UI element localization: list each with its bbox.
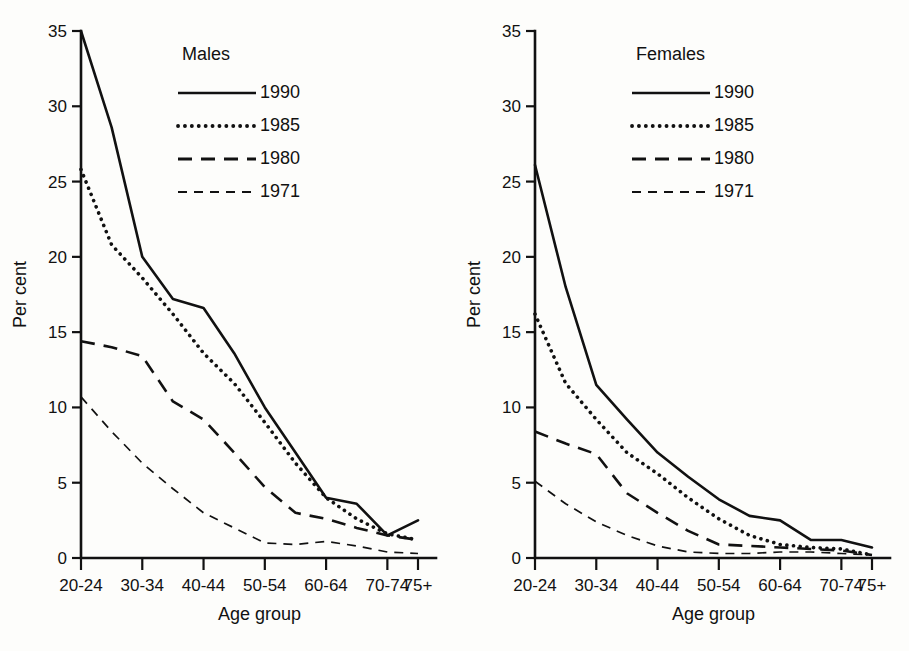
figure-container: 05101520253035Per cent20-2430-3440-4450-… — [0, 0, 909, 651]
series-line-1971 — [535, 481, 872, 555]
y-tick-label: 10 — [48, 398, 67, 417]
legend-females: Females1990198519801971 — [632, 44, 754, 201]
y-tick-label: 5 — [58, 474, 67, 493]
y-axis-ticks: 05101520253035 — [502, 22, 535, 568]
y-tick-label: 30 — [502, 97, 521, 116]
x-axis-ticks: 20-2430-3440-4450-5460-6470-7475+ — [59, 558, 432, 595]
legend-item-1990[interactable]: 1990 — [632, 82, 754, 102]
x-axis-title: Age group — [218, 604, 301, 624]
series-group — [81, 31, 418, 553]
x-tick-label: 70-74 — [820, 576, 863, 595]
series-group — [535, 165, 872, 555]
legend-title: Males — [182, 44, 230, 64]
y-tick-label: 35 — [48, 22, 67, 41]
legend-item-1980[interactable]: 1980 — [178, 148, 300, 168]
y-tick-label: 30 — [48, 97, 67, 116]
legend-item-1971[interactable]: 1971 — [632, 181, 754, 201]
series-line-1990 — [81, 31, 418, 535]
x-tick-label: 50-54 — [697, 576, 740, 595]
legend-label: 1985 — [714, 115, 754, 135]
x-tick-label: 30-34 — [575, 576, 618, 595]
x-tick-label: 40-44 — [636, 576, 679, 595]
y-tick-label: 0 — [58, 549, 67, 568]
series-line-1990 — [535, 165, 872, 547]
x-tick-label: 60-64 — [758, 576, 801, 595]
x-tick-label: 75+ — [404, 576, 433, 595]
line-chart-females: 05101520253035Per cent20-2430-3440-4450-… — [454, 0, 908, 651]
y-tick-label: 20 — [48, 248, 67, 267]
y-tick-label: 25 — [48, 173, 67, 192]
y-tick-label: 10 — [502, 398, 521, 417]
legend-title: Females — [636, 44, 705, 64]
legend-item-1985[interactable]: 1985 — [178, 115, 300, 135]
series-line-1980 — [535, 432, 872, 555]
legend-item-1985[interactable]: 1985 — [632, 115, 754, 135]
x-tick-label: 20-24 — [513, 576, 556, 595]
y-axis-ticks: 05101520253035 — [48, 22, 81, 568]
x-axis-ticks: 20-2430-3440-4450-5460-6470-7475+ — [513, 558, 886, 595]
x-tick-label: 50-54 — [243, 576, 286, 595]
chart-panel-males: 05101520253035Per cent20-2430-3440-4450-… — [0, 0, 454, 651]
y-tick-label: 15 — [48, 323, 67, 342]
series-line-1985 — [81, 170, 418, 540]
axes — [535, 31, 890, 558]
y-tick-label: 15 — [502, 323, 521, 342]
legend-label: 1990 — [714, 82, 754, 102]
line-chart-males: 05101520253035Per cent20-2430-3440-4450-… — [0, 0, 454, 651]
legend-item-1980[interactable]: 1980 — [632, 148, 754, 168]
y-tick-label: 5 — [512, 474, 521, 493]
legend-label: 1990 — [260, 82, 300, 102]
x-tick-label: 75+ — [858, 576, 887, 595]
series-line-1980 — [81, 341, 418, 540]
legend-item-1971[interactable]: 1971 — [178, 181, 300, 201]
x-tick-label: 40-44 — [182, 576, 225, 595]
legend-item-1990[interactable]: 1990 — [178, 82, 300, 102]
legend-label: 1985 — [260, 115, 300, 135]
y-tick-label: 35 — [502, 22, 521, 41]
legend-males: Males1990198519801971 — [178, 44, 300, 201]
y-tick-label: 0 — [512, 549, 521, 568]
x-tick-label: 70-74 — [366, 576, 409, 595]
legend-label: 1980 — [714, 148, 754, 168]
y-tick-label: 20 — [502, 248, 521, 267]
x-tick-label: 20-24 — [59, 576, 102, 595]
chart-panel-females: 05101520253035Per cent20-2430-3440-4450-… — [454, 0, 908, 651]
legend-label: 1971 — [714, 181, 754, 201]
y-axis-title: Per cent — [10, 261, 30, 328]
y-tick-label: 25 — [502, 173, 521, 192]
x-tick-label: 30-34 — [121, 576, 164, 595]
x-tick-label: 60-64 — [304, 576, 347, 595]
x-axis-title: Age group — [672, 604, 755, 624]
y-axis-title: Per cent — [464, 261, 484, 328]
legend-label: 1971 — [260, 181, 300, 201]
legend-label: 1980 — [260, 148, 300, 168]
